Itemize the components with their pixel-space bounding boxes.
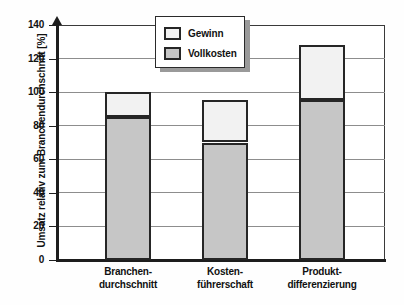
bar-segment-gewinn[interactable] bbox=[202, 100, 248, 143]
legend-swatch-gewinn-icon bbox=[164, 27, 181, 40]
y-tick-mark-140 bbox=[49, 25, 57, 26]
y-tick-mark-60 bbox=[49, 159, 57, 160]
chart-legend: Gewinn Vollkosten bbox=[155, 16, 245, 68]
y-tick-mark-40 bbox=[49, 193, 57, 194]
bar-segment-gewinn[interactable] bbox=[299, 45, 345, 100]
y-axis-title: Umsatz relativ zum Branchendurchschnitt … bbox=[36, 16, 47, 266]
y-tick-mark-80 bbox=[49, 126, 57, 127]
bar-group[interactable] bbox=[105, 25, 151, 260]
y-tick-mark-20 bbox=[49, 226, 57, 227]
legend-label-gewinn: Gewinn bbox=[188, 28, 224, 39]
chart-container: 140120100806040200 Umsatz relativ zum Br… bbox=[0, 0, 404, 305]
bar-group[interactable] bbox=[299, 25, 345, 260]
legend-label-vollkosten: Vollkosten bbox=[188, 48, 237, 59]
bar-segment-vollkosten[interactable] bbox=[105, 117, 151, 260]
y-tick-mark-120 bbox=[49, 59, 57, 60]
y-tick-mark-100 bbox=[49, 92, 57, 93]
x-axis-category-label-line: differenzierung bbox=[262, 278, 382, 291]
y-tick-mark-0 bbox=[49, 260, 57, 261]
bar-segment-vollkosten[interactable] bbox=[202, 143, 248, 261]
legend-item-gewinn[interactable]: Gewinn bbox=[164, 23, 244, 43]
bar-segment-vollkosten[interactable] bbox=[299, 100, 345, 260]
legend-swatch-vollkosten-icon bbox=[164, 47, 181, 60]
x-axis-category-label: Produkt-differenzierung bbox=[262, 265, 382, 291]
legend-item-vollkosten[interactable]: Vollkosten bbox=[164, 43, 244, 63]
y-axis-arrow-icon bbox=[52, 16, 62, 25]
bar-segment-gewinn[interactable] bbox=[105, 92, 151, 117]
x-axis-category-label-line: Produkt- bbox=[262, 265, 382, 278]
